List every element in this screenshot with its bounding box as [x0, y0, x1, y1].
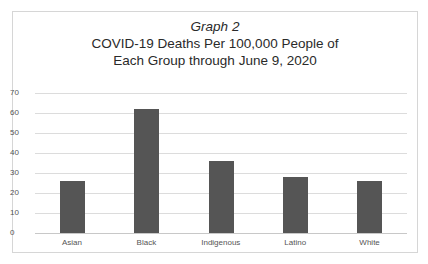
gridline: [35, 133, 407, 134]
bar-asian: [60, 181, 85, 233]
bar-white: [357, 181, 382, 233]
x-tick-label: White: [333, 238, 407, 248]
y-tick-label: 10: [10, 208, 28, 218]
y-tick-label: 70: [10, 88, 28, 98]
y-tick-label: 0: [10, 228, 28, 238]
bar-indigenous: [209, 161, 234, 233]
x-tick-label: Black: [109, 238, 183, 248]
y-tick-label: 50: [10, 128, 28, 138]
x-tick-label: Latino: [258, 238, 332, 248]
gridline: [35, 93, 407, 94]
y-tick-label: 60: [10, 108, 28, 118]
bar-latino: [283, 177, 308, 233]
y-tick-label: 20: [10, 188, 28, 198]
x-tick-label: Indigenous: [184, 238, 258, 248]
gridline: [35, 113, 407, 114]
x-tick-label: Asian: [35, 238, 109, 248]
y-tick-label: 40: [10, 148, 28, 158]
plot-area: AsianBlackIndigenousLatinoWhite: [35, 0, 407, 264]
bar-black: [134, 109, 159, 233]
y-tick-label: 30: [10, 168, 28, 178]
gridline: [35, 153, 407, 154]
gridline: [35, 233, 407, 234]
